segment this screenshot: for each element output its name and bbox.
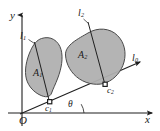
point-c2-label: c2: [107, 86, 114, 96]
region-a2: [65, 29, 125, 84]
y-axis-label: y: [10, 10, 15, 21]
line-l1-label: l1: [20, 31, 26, 42]
line-l0-label-sub: 0: [135, 56, 138, 63]
line-l2-label-sub: 2: [81, 11, 84, 18]
region-a2-label: A2: [78, 50, 87, 61]
point-c2-label-sub: 2: [111, 89, 114, 95]
angle-theta-label: θ: [68, 100, 73, 110]
origin-label: O: [19, 115, 27, 126]
region-a1: [26, 38, 63, 97]
line-l1-leader: [29, 40, 35, 44]
region-a2-label-sub: 2: [84, 53, 87, 60]
region-a1-label: A1: [33, 68, 42, 79]
line-l1-label-sub: 1: [23, 34, 26, 41]
point-c1-label: c1: [45, 104, 52, 114]
figure-canvas: [0, 0, 160, 131]
line-l0-label: l0: [132, 53, 138, 64]
angle-arc: [81, 104, 84, 113]
line-l2-leader: [84, 19, 89, 24]
line-l2-label: l2: [78, 8, 84, 19]
point-c1-label-sub: 1: [49, 107, 52, 113]
region-a1-label-sub: 1: [39, 71, 42, 78]
geometry-figure: y x O l1 l2 l0 A1 A2 c1 c2 θ: [0, 0, 160, 131]
x-axis-label: x: [145, 114, 150, 125]
